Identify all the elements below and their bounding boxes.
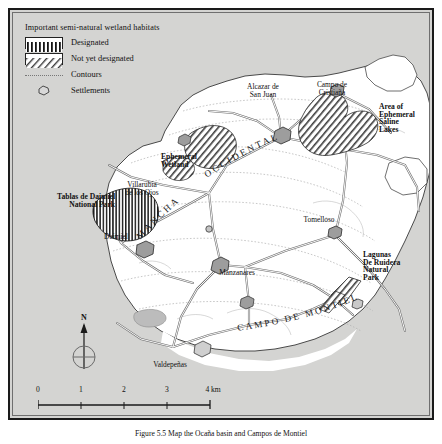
scale-bar-graphic [38,398,228,410]
scale-tick-2: 2 [122,385,126,394]
legend-label-designated: Designated [71,38,109,47]
scale-tick-1: 1 [79,385,83,394]
label-villarubia-de-los-ojos: Villarubia de los Ojos [109,181,175,196]
scale-tick-3: 3 [165,385,169,394]
label-alcazar-de-san-juan: Alcazar de San Juan [228,83,298,98]
compass-icon [61,313,107,375]
label-tomelloso: Tomelloso [291,216,347,224]
label-ephemeral-wetland: Ephemeral Wetland [161,153,231,168]
lake-shape [134,309,166,327]
label-manzanares: Manzanares [207,269,267,277]
legend-item-not-yet-designated: Not yet designated [25,51,230,66]
label-lagunas-de-ruidera-natural-park: Lagunas De Ruidera Natural Park [363,251,425,282]
legend-label-contours: Contours [71,70,102,79]
legend-label-settlements: Settlements [71,86,110,95]
label-daimiel: Daimiel [91,233,141,241]
label-valdepenas: Valdepeñas [139,361,201,369]
settlement-polygon-icon [25,85,63,97]
figure-container: Important semi-natural wetland habitats [0,0,442,444]
scale-tick-4: 4 km [205,385,220,394]
label-campo-de-criptana: Campo de Cristiaña [301,81,363,96]
scale-tick-0: 0 [36,385,40,394]
legend-item-contours: Contours [25,67,230,82]
legend-item-designated: Designated [25,35,230,50]
legend-item-settlements: Settlements [25,83,230,98]
compass-rose: N [61,313,107,375]
label-area-of-ephemeral-saline-lakes: Area of Ephemeral Saline Lakes [379,103,430,134]
scale-bar: 0 1 2 3 4 km [38,385,228,411]
map-canvas: Important semi-natural wetland habitats [12,12,430,416]
figure-caption: Figure 5.5 Map the Ocaña basin and Campo… [0,429,442,438]
dotted-line-icon [25,69,63,81]
compass-north-label: N [61,313,107,322]
diagonal-hatch-swatch-icon [25,53,63,65]
legend: Important semi-natural wetland habitats [25,23,230,99]
legend-label-not-yet-designated: Not yet designated [71,54,134,63]
vertical-hatch-swatch-icon [25,37,63,49]
legend-title: Important semi-natural wetland habitats [25,23,230,32]
scale-tick-labels: 0 1 2 3 4 km [38,385,228,396]
label-tablas-de-daimiel-national-park: Tablas de Daimiel National Park [17,193,115,208]
map-frame: Important semi-natural wetland habitats [8,8,434,420]
